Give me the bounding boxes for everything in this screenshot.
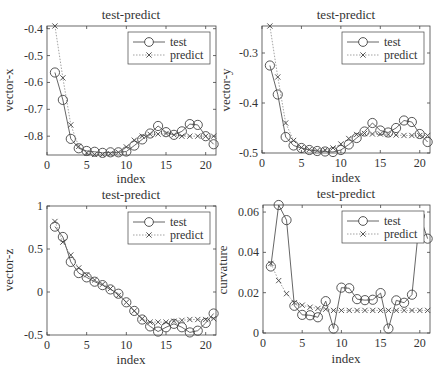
y-tick-label: 0 [253, 326, 259, 340]
x-axis-label: index [117, 171, 146, 186]
legend-circle-icon [359, 38, 368, 47]
x-tick-label: 20 [414, 156, 426, 170]
predict-marker-x [52, 219, 57, 224]
y-tick-label: -0.4 [239, 96, 258, 110]
y-tick-label: -0.5 [24, 328, 43, 342]
x-tick-label: 20 [414, 336, 426, 350]
predict-marker-x [402, 308, 407, 313]
x-tick-label: 20 [200, 158, 212, 172]
predict-marker-x [300, 303, 305, 308]
figure: test-predict vector-x index 05101520-0.8… [0, 0, 443, 377]
legend-test-label: test [170, 215, 187, 229]
y-tick-label: -0.3 [239, 46, 258, 60]
predict-marker-x [155, 131, 160, 136]
x-tick-label: 15 [160, 158, 172, 172]
legend-predict-label: predict [384, 48, 418, 62]
subplot-title: test-predict [102, 7, 161, 22]
predict-marker-x [276, 278, 281, 283]
x-tick-label: 15 [160, 338, 172, 352]
x-axis-label: index [332, 170, 361, 185]
predict-marker-x [68, 122, 73, 127]
x-tick-label: 10 [335, 156, 347, 170]
x-tick-label: 15 [374, 156, 386, 170]
x-tick-label: 0 [260, 336, 266, 350]
legend-predict-label: predict [170, 48, 204, 62]
legend-predict-label: predict [170, 228, 204, 242]
predict-marker-x [401, 133, 406, 138]
y-tick-label: 0 [37, 285, 43, 299]
y-axis-label: vector-y [218, 68, 233, 112]
y-tick-label: -0.5 [24, 49, 43, 63]
predict-marker-x [132, 138, 137, 143]
legend-predict-label: predict [384, 227, 418, 241]
legend: testpredict [128, 32, 210, 64]
subplot-vector-z: test-predict vector-z index 05101520-0.5… [1, 187, 218, 367]
x-tick-label: 5 [298, 156, 304, 170]
x-tick-label: 10 [120, 338, 132, 352]
subplot-vector-y: test-predict vector-y index 05101520-0.5… [218, 7, 432, 185]
y-tick-label: -0.8 [24, 129, 43, 143]
x-tick-label: 15 [375, 336, 387, 350]
predict-marker-x [155, 320, 160, 325]
x-tick-label: 5 [84, 338, 90, 352]
legend-test-label: test [384, 214, 401, 228]
legend: testpredict [128, 212, 210, 244]
y-axis-label: vector-x [1, 68, 16, 112]
legend-circle-icon [145, 38, 154, 47]
y-tick-label: -0.5 [239, 146, 258, 160]
x-tick-label: 10 [120, 158, 132, 172]
legend: testpredict [342, 211, 424, 243]
legend-circle-icon [145, 218, 154, 227]
predict-marker-x [362, 308, 367, 313]
y-tick-label: 1 [37, 199, 43, 213]
subplot-title: test-predict [317, 186, 376, 201]
subplot-title: test-predict [102, 187, 161, 202]
y-tick-label: 0.02 [238, 286, 259, 300]
y-axis-label: curvature [215, 245, 230, 294]
x-tick-label: 20 [200, 338, 212, 352]
y-tick-label: -0.7 [24, 102, 43, 116]
legend-circle-icon [359, 217, 368, 226]
y-tick-label: -0.4 [24, 22, 43, 36]
y-tick-label: -0.6 [24, 75, 43, 89]
x-tick-label: 5 [84, 158, 90, 172]
y-tick-label: 0.06 [238, 205, 259, 219]
subplot-title: test-predict [317, 7, 376, 22]
y-tick-label: 0.04 [238, 245, 259, 259]
y-axis-label: vector-z [1, 249, 16, 292]
legend-test-label: test [170, 35, 187, 49]
x-tick-label: 0 [44, 338, 50, 352]
x-tick-label: 0 [259, 156, 265, 170]
x-tick-label: 5 [299, 336, 305, 350]
test-marker-circle [50, 222, 59, 231]
predict-marker-x [140, 316, 145, 321]
x-tick-label: 0 [44, 158, 50, 172]
legend: testpredict [342, 32, 424, 64]
legend-test-label: test [384, 35, 401, 49]
subplot-curvature: test-predict curvature index 0510152000.… [215, 186, 432, 366]
predict-marker-x [179, 318, 184, 323]
x-axis-label: index [332, 351, 361, 366]
predict-marker-x [284, 291, 289, 296]
subplot-vector-x: test-predict vector-x index 05101520-0.8… [1, 7, 218, 186]
predict-marker-x [275, 74, 280, 79]
y-tick-label: 0.5 [28, 242, 43, 256]
predict-marker-x [339, 308, 344, 313]
x-tick-label: 10 [335, 336, 347, 350]
x-axis-label: index [117, 352, 146, 367]
